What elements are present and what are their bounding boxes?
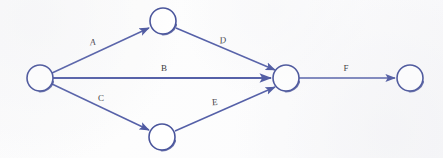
end-node[interactable] — [397, 65, 423, 91]
edge-a-label: A — [89, 37, 97, 48]
edge-c-label: C — [98, 93, 104, 103]
edge-c-line — [52, 84, 149, 130]
merge-node[interactable] — [273, 65, 299, 91]
nodes-layer — [27, 8, 423, 150]
start-node[interactable] — [27, 65, 53, 91]
lower-node[interactable] — [149, 124, 175, 150]
edge-f-label: F — [343, 63, 348, 73]
edge-d-line — [176, 28, 275, 70]
edge-d-label: D — [218, 35, 227, 46]
edge-b-label: B — [161, 63, 167, 73]
diagram-canvas: A B C D E F — [0, 0, 443, 158]
upper-node[interactable] — [150, 8, 176, 34]
edge-e-label: E — [212, 97, 219, 107]
edge-e-line — [175, 87, 275, 131]
edge-a-line — [52, 28, 149, 73]
network-diagram-svg: A B C D E F — [0, 0, 443, 158]
